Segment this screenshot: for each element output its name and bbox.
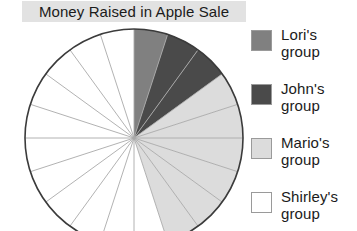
legend-label-lori-line1: Lori's [281,26,357,43]
legend-label-lori: Lori's group [281,26,357,60]
john-swatch-icon [251,84,272,105]
chart-legend: Lori's group John's group Mario's group … [249,27,357,231]
pie-chart [0,0,260,231]
legend-label-mario: Mario's group [281,134,357,168]
mario-swatch-icon [251,138,272,159]
legend-label-shirley-line2: group [281,205,357,222]
legend-label-mario-line2: group [281,151,357,168]
legend-label-john: John's group [281,80,357,114]
legend-item-shirley[interactable]: Shirley's group [249,189,357,231]
legend-label-mario-line1: Mario's [281,134,357,151]
chart-screenshot: Money Raised in Apple Sale Lori's group … [0,0,357,231]
legend-label-shirley: Shirley's group [281,188,357,222]
legend-label-shirley-line1: Shirley's [281,188,357,205]
legend-item-john[interactable]: John's group [249,81,357,127]
legend-label-lori-line2: group [281,43,357,60]
legend-label-john-line2: group [281,97,357,114]
lori-swatch-icon [251,30,272,51]
legend-label-john-line1: John's [281,80,357,97]
pie-chart-svg [0,0,260,231]
legend-item-lori[interactable]: Lori's group [249,27,357,73]
shirley-swatch-icon [251,192,272,213]
legend-item-mario[interactable]: Mario's group [249,135,357,181]
